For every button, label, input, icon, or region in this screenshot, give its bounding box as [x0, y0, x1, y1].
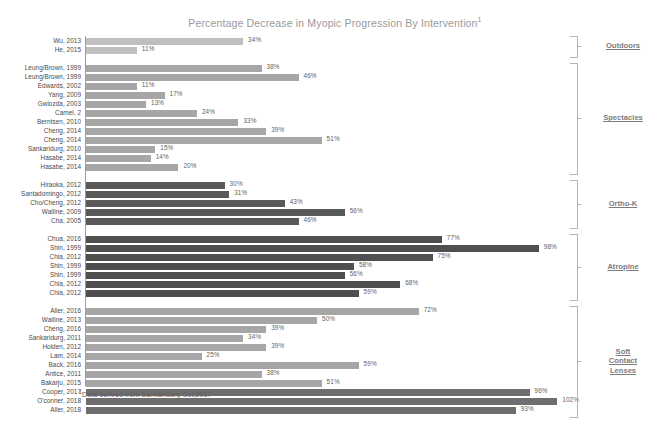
bar — [86, 398, 557, 405]
chart-footnote: 1Data derived from Sankaridurg Oct,2017 — [79, 389, 211, 398]
category-label: Antice, 2011 — [0, 370, 81, 377]
bar — [86, 146, 155, 153]
bar — [86, 317, 317, 324]
bar-value-label: 13% — [151, 99, 164, 106]
bar — [86, 83, 137, 90]
plot-area: 34%11%38%46%11%17%13%24%33%39%51%15%14%2… — [85, 36, 565, 386]
category-label: Cooper, 2017 — [0, 388, 81, 395]
bar-value-label: 58% — [359, 261, 372, 268]
category-label: Camel, 2 — [0, 109, 81, 116]
bar — [86, 191, 229, 198]
bar-value-label: 50% — [322, 315, 335, 322]
bar-value-label: 39% — [271, 324, 284, 331]
bar — [86, 137, 322, 144]
bar — [86, 119, 238, 126]
bar-value-label: 39% — [271, 126, 284, 133]
bar-value-label: 31% — [234, 189, 247, 196]
bar — [86, 65, 262, 72]
group-brace-tick — [577, 267, 581, 268]
group-brace-tick — [577, 204, 581, 205]
bar-value-label: 75% — [438, 252, 451, 259]
group-brace-tick — [577, 46, 581, 47]
bar-value-label: 33% — [243, 117, 256, 124]
bar-value-label: 20% — [183, 162, 196, 169]
bar — [86, 128, 266, 135]
bar-value-label: 30% — [230, 180, 243, 187]
group-name-soft-contact-lenses: SoftContactLenses — [582, 347, 664, 376]
category-label: Hasabe, 2014 — [0, 163, 81, 170]
chart-title: Percentage Decrease in Myopic Progressio… — [185, 13, 485, 30]
bar — [86, 38, 243, 45]
category-label: Yang, 2009 — [0, 91, 81, 98]
group-name-line: Ortho-K — [582, 199, 664, 209]
category-label: Shin, 1999 — [0, 244, 81, 251]
category-label: Back, 2016 — [0, 361, 81, 368]
group-brace — [570, 234, 578, 301]
bar — [86, 110, 197, 117]
group-brace-tick — [577, 118, 581, 119]
bar — [86, 362, 359, 369]
category-label: He, 2015 — [0, 46, 81, 53]
category-label: Holden, 2012 — [0, 343, 81, 350]
category-label: Cheng, 2014 — [0, 136, 81, 143]
category-label: Aller, 2018 — [0, 406, 81, 413]
category-label: Santadomingo, 2012 — [0, 190, 81, 197]
bar — [86, 326, 266, 333]
bar — [86, 380, 322, 387]
bar — [86, 308, 419, 315]
bar-value-label: 17% — [170, 90, 183, 97]
category-label: Leung/Brown, 1999 — [0, 64, 81, 71]
category-label: Chia, 2012 — [0, 280, 81, 287]
bar — [86, 74, 299, 81]
category-label: Hiraoka, 2012 — [0, 181, 81, 188]
bar — [86, 218, 299, 225]
bar — [86, 290, 359, 297]
group-brace-tick — [577, 361, 581, 362]
chart-title-text: Percentage Decrease in Myopic Progressio… — [188, 17, 477, 29]
category-label: Chia, 2012 — [0, 253, 81, 260]
group-name-outdoors: Outdoors — [582, 41, 664, 51]
group-name-line: Contact — [582, 356, 664, 366]
bar — [86, 182, 225, 189]
group-brace — [570, 63, 578, 175]
bar-value-label: 11% — [142, 45, 155, 52]
bar-value-label: 24% — [202, 108, 215, 115]
bar-value-label: 38% — [267, 369, 280, 376]
group-name-ortho-k: Ortho-K — [582, 199, 664, 209]
bar — [86, 209, 345, 216]
bar-value-label: 72% — [424, 306, 437, 313]
bar — [86, 164, 178, 171]
category-label: Sankaridurg, 2010 — [0, 145, 81, 152]
category-label: Walline, 2009 — [0, 208, 81, 215]
category-label: Cha, 2005 — [0, 217, 81, 224]
bar — [86, 281, 400, 288]
bar — [86, 155, 151, 162]
bar-value-label: 38% — [267, 63, 280, 70]
chart-title-superscript: 1 — [478, 16, 482, 23]
bar-value-label: 56% — [350, 270, 363, 277]
bar — [86, 245, 539, 252]
bar-value-label: 98% — [544, 243, 557, 250]
category-label: Aller, 2016 — [0, 307, 81, 314]
bar-value-label: 96% — [535, 387, 548, 394]
group-name-spectacles: Spectacles — [582, 113, 664, 123]
category-label: Cheng, 2016 — [0, 325, 81, 332]
category-label: Shin, 1999 — [0, 262, 81, 269]
bar — [86, 353, 202, 360]
bar — [86, 236, 442, 243]
category-label: Cho/Cheng, 2012 — [0, 199, 81, 206]
bar — [86, 47, 137, 54]
category-label: Shin, 1999 — [0, 271, 81, 278]
category-label: Chua, 2016 — [0, 235, 81, 242]
bar-value-label: 51% — [327, 378, 340, 385]
category-label: Berntsen, 2010 — [0, 118, 81, 125]
group-name-line: Soft — [582, 347, 664, 357]
category-label: Wu, 2013 — [0, 37, 81, 44]
group-name-line: Outdoors — [582, 41, 664, 51]
bar-value-label: 11% — [142, 81, 155, 88]
bar — [86, 263, 354, 270]
bar-value-label: 43% — [290, 198, 303, 205]
category-label: Lam, 2014 — [0, 352, 81, 359]
bar-value-label: 15% — [160, 144, 173, 151]
category-label: Hasabe, 2014 — [0, 154, 81, 161]
